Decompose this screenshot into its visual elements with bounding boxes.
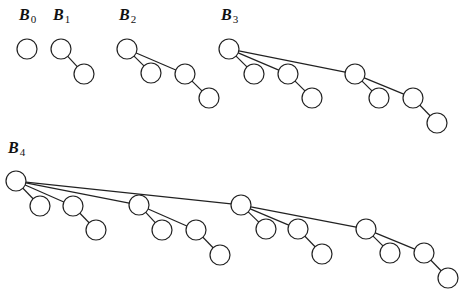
tree-node: [256, 219, 276, 239]
tree-node: [438, 268, 458, 288]
tree-edge: [248, 212, 259, 222]
tree-edge: [134, 56, 144, 66]
tree-edge: [420, 105, 430, 116]
tree-b4: B4: [6, 139, 458, 288]
tree-node: [288, 219, 308, 239]
tree-node: [278, 64, 298, 84]
tree-node: [369, 88, 389, 108]
tree-edge: [146, 212, 155, 222]
tree-label: B2: [118, 6, 136, 25]
tree-edge: [305, 236, 315, 247]
tree-root-node: [51, 39, 71, 59]
tree-edge: [80, 213, 89, 223]
tree-node: [63, 196, 83, 216]
tree-edge: [68, 56, 77, 66]
tree-b1: B1: [51, 6, 94, 84]
tree-node: [312, 244, 332, 264]
tree-node: [414, 243, 434, 263]
tree-node: [345, 64, 365, 84]
diagram-canvas: B0B1B2B3B4: [0, 0, 462, 295]
tree-node: [141, 63, 161, 83]
tree-node: [152, 220, 172, 240]
tree-label: B4: [7, 139, 26, 158]
binomial-trees-diagram: B0B1B2B3B4: [0, 0, 462, 295]
tree-edge: [373, 236, 383, 246]
tree-node: [30, 196, 50, 216]
tree-edge: [203, 237, 213, 248]
tree-node: [356, 219, 376, 239]
tree-node: [199, 88, 219, 108]
tree-node: [427, 113, 447, 133]
tree-edge: [236, 56, 247, 67]
tree-b3: B3: [219, 6, 447, 133]
tree-label: B1: [52, 6, 70, 25]
tree-node: [302, 88, 322, 108]
tree-node: [231, 195, 251, 215]
tree-node: [210, 245, 230, 265]
tree-edge: [26, 182, 231, 204]
tree-edge: [362, 81, 372, 91]
tree-node: [86, 220, 106, 240]
tree-label: B0: [18, 6, 37, 25]
tree-node: [403, 88, 423, 108]
tree-root-node: [17, 39, 37, 59]
tree-node: [175, 64, 195, 84]
tree-node: [244, 64, 264, 84]
tree-b2: B2: [117, 6, 219, 108]
tree-root-node: [117, 39, 137, 59]
tree-edge: [23, 188, 33, 199]
tree-node: [129, 195, 149, 215]
tree-edge: [295, 81, 305, 91]
tree-b0: B0: [17, 6, 37, 59]
tree-edge: [431, 260, 441, 271]
tree-node: [74, 64, 94, 84]
tree-root-node: [6, 171, 26, 191]
tree-label: B3: [220, 6, 239, 25]
tree-root-node: [219, 39, 239, 59]
tree-node: [186, 220, 206, 240]
tree-node: [380, 243, 400, 263]
tree-edge: [192, 81, 202, 91]
